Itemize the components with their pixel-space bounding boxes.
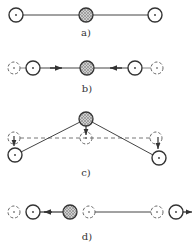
ghost-mass-right	[151, 206, 163, 218]
ghost-mass-right	[151, 62, 163, 74]
panel-label-b: b)	[82, 84, 92, 94]
end-mass-right	[169, 205, 183, 219]
panel-c	[8, 112, 166, 165]
panel-label-c: c)	[81, 168, 91, 178]
ghost-mass-right	[150, 132, 162, 144]
string-line	[92, 122, 153, 155]
central-mass	[79, 112, 93, 126]
central-mass	[79, 8, 93, 22]
ghost-mass-left	[8, 62, 20, 74]
end-mass-right	[148, 8, 162, 22]
central-mass	[80, 61, 94, 75]
end-mass-right	[152, 151, 166, 165]
panel-b	[8, 61, 163, 75]
panel-a	[9, 8, 162, 22]
panel-d	[8, 205, 192, 219]
panel-label-a: a)	[81, 28, 91, 38]
end-mass-left	[26, 205, 40, 219]
end-mass-left	[9, 8, 23, 22]
end-mass-left	[8, 148, 22, 162]
end-mass-right	[128, 61, 142, 75]
ghost-mass-center	[83, 206, 95, 218]
diagram-canvas	[0, 0, 194, 251]
end-mass-left	[26, 61, 40, 75]
string-line	[21, 122, 80, 152]
panel-label-d: d)	[82, 232, 92, 242]
ghost-mass-left	[8, 206, 20, 218]
central-mass	[63, 205, 77, 219]
